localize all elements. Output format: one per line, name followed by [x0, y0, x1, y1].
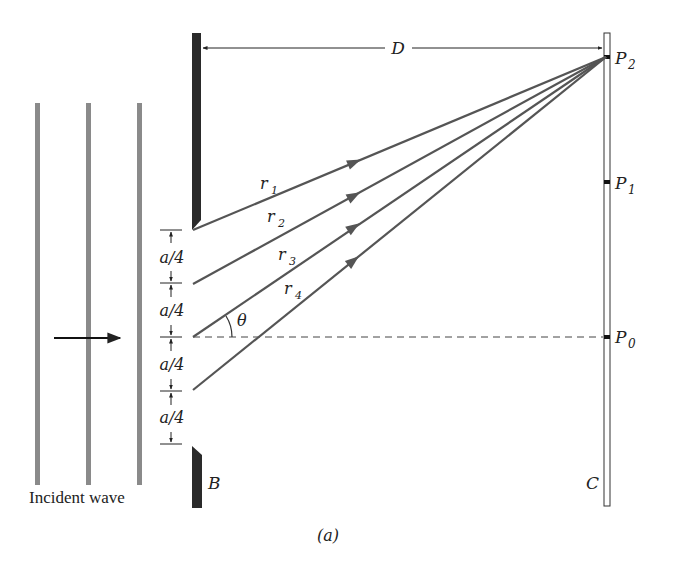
point-p1-marker: [604, 180, 610, 184]
segment-label: a/4: [159, 408, 184, 427]
arrowhead-icon: [346, 188, 363, 204]
ray-r2: [193, 57, 606, 284]
svg-text:r: r: [267, 207, 276, 226]
angle-arc: [226, 316, 232, 337]
wavefront-line: [35, 103, 40, 485]
svg-text:0: 0: [628, 337, 636, 351]
screen-label: C: [586, 473, 599, 493]
incident-wave-label: Incident wave: [29, 488, 125, 507]
svg-text:2: 2: [277, 217, 285, 230]
ray-r3: [193, 57, 606, 337]
svg-text:3: 3: [289, 255, 296, 268]
wavefront-line: [86, 103, 91, 485]
svg-text:r: r: [278, 245, 287, 264]
ray-label-r4: r 4: [284, 279, 302, 302]
segment-label: a/4: [159, 301, 184, 320]
figure-caption: (a): [317, 526, 339, 545]
distance-label: D: [390, 38, 405, 58]
ray-arrowheads: [345, 155, 363, 269]
point-p0-marker: [604, 335, 610, 339]
svg-text:P: P: [614, 48, 627, 68]
svg-text:1: 1: [271, 184, 278, 197]
arrowhead-icon: [346, 155, 363, 170]
incident-wavefronts: [35, 103, 142, 485]
barrier-bottom: [192, 446, 202, 508]
segment-label: a/4: [159, 248, 184, 267]
point-label-p0: P 0: [614, 327, 636, 351]
svg-text:P: P: [614, 327, 627, 347]
rays: [193, 57, 606, 390]
segment-label: a/4: [159, 355, 184, 374]
svg-text:2: 2: [627, 58, 636, 72]
ray-label-r3: r 3: [278, 245, 296, 268]
barrier-label: B: [207, 473, 221, 493]
svg-text:P: P: [614, 173, 627, 193]
svg-text:r: r: [260, 174, 269, 193]
svg-text:r: r: [284, 279, 293, 298]
point-label-p2: P 2: [614, 48, 636, 72]
wavefront-line: [137, 103, 142, 485]
svg-text:4: 4: [294, 289, 302, 302]
ray-label-r1: r 1: [260, 174, 278, 197]
ray-r4: [193, 57, 606, 390]
diffraction-diagram: a/4 a/4 a/4 a/4 D θ r 1 r 2 r 3 r 4 P 2 …: [0, 0, 674, 572]
barrier-top: [192, 33, 201, 230]
screen: [604, 33, 610, 506]
ray-label-r2: r 2: [267, 207, 285, 230]
point-label-p1: P 1: [614, 173, 636, 197]
angle-label: θ: [237, 311, 247, 330]
svg-text:1: 1: [628, 183, 636, 197]
ray-r1: [193, 57, 606, 230]
